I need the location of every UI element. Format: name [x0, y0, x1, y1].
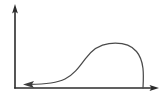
hysteresis-curve-path	[30, 43, 143, 88]
y-axis	[12, 4, 18, 89]
x-axis	[14, 85, 159, 91]
figure-canvas	[0, 0, 161, 109]
curve-diagram-svg	[0, 0, 161, 109]
curve-group	[23, 43, 143, 88]
